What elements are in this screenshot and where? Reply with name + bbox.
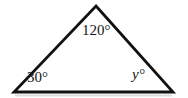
angle-label-bottom-left: 30° xyxy=(27,70,48,85)
angle-label-apex: 120° xyxy=(82,23,111,38)
angle-label-bottom-right: y° xyxy=(132,67,145,82)
geometry-figure: 120° 30° y° xyxy=(0,0,188,98)
